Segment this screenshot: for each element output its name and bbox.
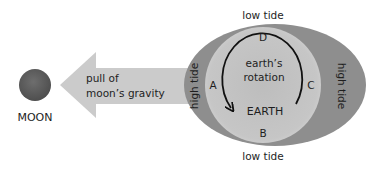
point-b-label: B [259, 127, 266, 139]
tides-diagram: MOON pull of moon’s gravity earth’s rota… [0, 0, 370, 169]
earth-label: EARTH [247, 105, 283, 118]
rotation-label-line2: rotation [243, 71, 284, 83]
gravity-label-line1: pull of [86, 72, 119, 84]
gravity-arrow: pull of moon’s gravity [60, 52, 200, 118]
high-tide-left-label: high tide [188, 63, 200, 109]
point-c-label: C [307, 79, 314, 91]
low-tide-bottom-label: low tide [242, 150, 283, 162]
low-tide-top-label: low tide [242, 9, 283, 21]
gravity-label-line2: moon’s gravity [86, 87, 165, 99]
moon: MOON [17, 69, 52, 124]
left-arrow-icon [60, 52, 200, 118]
rotation-label-line1: earth’s [246, 57, 283, 69]
moon-icon [19, 69, 51, 101]
moon-label: MOON [17, 111, 52, 124]
high-tide-right-label: high tide [336, 63, 348, 109]
point-a-label: A [209, 79, 217, 91]
point-d-label: D [259, 31, 267, 43]
